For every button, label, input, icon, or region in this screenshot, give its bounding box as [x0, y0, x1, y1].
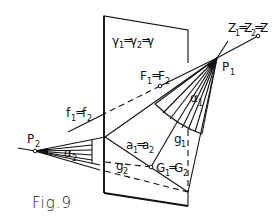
svg-text:1: 1 [181, 140, 186, 149]
svg-text:α: α [64, 146, 72, 160]
svg-text:1: 1 [230, 68, 235, 77]
z-line [68, 36, 258, 132]
label-gamma: γ1 = γ2 = γ [112, 33, 154, 50]
label-a: a1 = a2 [126, 137, 154, 155]
label-p1: P1 [222, 60, 235, 77]
svg-text:2: 2 [183, 169, 188, 178]
svg-text:2: 2 [35, 140, 40, 149]
svg-text:F: F [140, 69, 147, 83]
label-f-point: F1 = F2 [140, 68, 170, 86]
svg-text:γ: γ [147, 34, 154, 48]
svg-text:F: F [158, 69, 165, 83]
svg-text:2: 2 [87, 114, 92, 123]
svg-text:Z: Z [260, 21, 268, 35]
label-p2: P2 [27, 132, 40, 149]
svg-text:P: P [222, 60, 229, 74]
svg-text:2: 2 [165, 77, 170, 86]
svg-text:2: 2 [149, 146, 154, 155]
svg-text:G: G [174, 161, 183, 175]
p2-point [33, 149, 37, 153]
projection-diagram: γ1 = γ2 = γ Z1 = Z2 = Z P1 P2 F1 = F2 f1… [0, 0, 278, 223]
label-f-line: f1 = f2 [66, 105, 92, 123]
label-g-point: G1 = G2 [156, 160, 188, 178]
label-g2: g2 [116, 159, 128, 176]
label-alpha1: α1 [190, 91, 203, 108]
f-point [158, 84, 162, 88]
svg-text:P: P [27, 132, 34, 146]
figure-caption: Fig.9 [32, 194, 72, 212]
g-point [149, 165, 153, 169]
svg-text:2: 2 [123, 167, 128, 176]
svg-text:G: G [156, 161, 165, 175]
svg-text:2: 2 [72, 154, 77, 163]
svg-text:1: 1 [198, 99, 203, 108]
label-z: Z1 = Z2 = Z [228, 20, 268, 38]
label-g1: g1 [174, 132, 186, 149]
svg-text:α: α [190, 91, 198, 105]
